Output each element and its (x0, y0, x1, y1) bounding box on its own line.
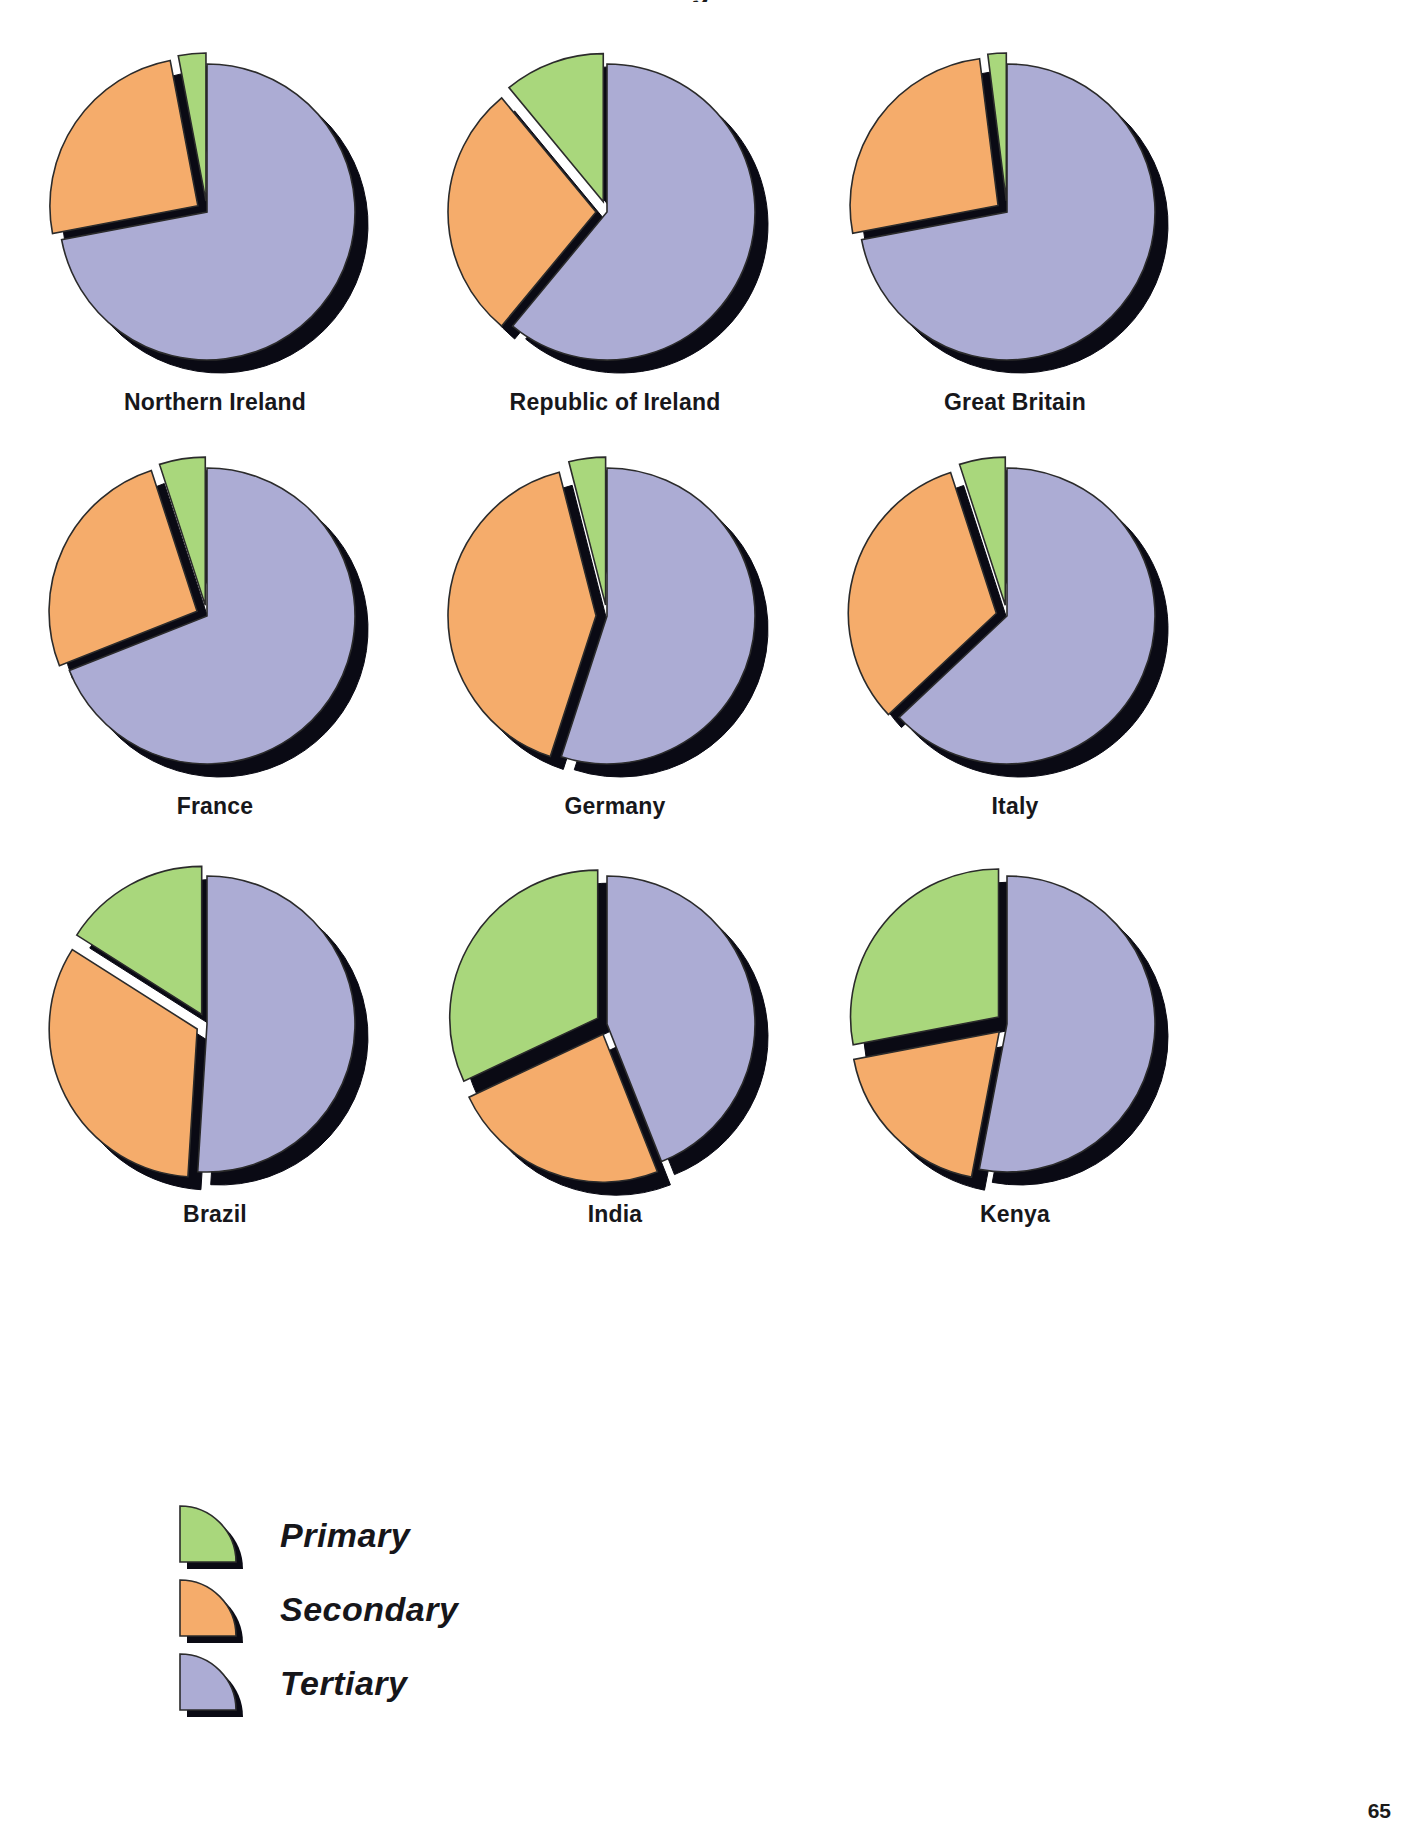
pie-slice-secondary (850, 59, 998, 234)
pie-slice-primary (851, 869, 999, 1045)
pie-slices (49, 866, 355, 1176)
pie-chart-row: France Germany Italy (0, 444, 1401, 820)
pie-svg (35, 852, 395, 1197)
pie-chart-italy (835, 444, 1195, 789)
pie-svg (435, 444, 795, 789)
page-root: g Northern Ireland Republic of Ireland G… (0, 0, 1401, 1827)
legend-swatch-svg (170, 1646, 248, 1720)
pie-chart-label: Italy (991, 793, 1038, 820)
legend-swatch-svg (170, 1572, 248, 1646)
pie-chart-cell-italy: Italy (830, 444, 1200, 820)
pie-chart-kenya (835, 852, 1195, 1197)
pie-chart-cell-india: India (430, 852, 800, 1228)
clipped-heading-text: g (0, 0, 1401, 2)
legend-item-secondary: Secondary (170, 1572, 690, 1646)
pie-chart-republic-of-ireland (435, 40, 795, 385)
legend-swatch-wedge (180, 1506, 236, 1562)
pie-chart-cell-germany: Germany (430, 444, 800, 820)
pie-svg (835, 444, 1195, 789)
pie-chart-row: Northern Ireland Republic of Ireland Gre… (0, 40, 1401, 416)
pie-chart-cell-great-britain: Great Britain (830, 40, 1200, 416)
pie-wedge-icon (170, 1646, 248, 1720)
page-number: 65 (1368, 1799, 1391, 1823)
pie-svg (835, 852, 1195, 1197)
pie-svg (35, 40, 395, 385)
pie-svg (435, 852, 795, 1197)
legend-item-label: Tertiary (280, 1664, 407, 1703)
pie-chart-cell-kenya: Kenya (830, 852, 1200, 1228)
pie-chart-northern-ireland (35, 40, 395, 385)
pie-chart-label: France (177, 793, 254, 820)
pie-chart-label: Brazil (183, 1201, 247, 1228)
legend-swatch-wedge (180, 1580, 236, 1636)
legend-item-primary: Primary (170, 1498, 690, 1572)
pie-chart-germany (435, 444, 795, 789)
legend-swatch-wedge (180, 1654, 236, 1710)
pie-chart-great-britain (835, 40, 1195, 385)
pie-chart-label: Republic of Ireland (510, 389, 721, 416)
pie-svg (35, 444, 395, 789)
pie-chart-label: India (588, 1201, 643, 1228)
pie-chart-label: Northern Ireland (124, 389, 306, 416)
pie-chart-cell-brazil: Brazil (30, 852, 400, 1228)
pie-slice-secondary (50, 60, 198, 233)
legend-item-label: Secondary (280, 1590, 458, 1629)
legend-item-label: Primary (280, 1516, 410, 1555)
pie-chart-cell-republic-of-ireland: Republic of Ireland (430, 40, 800, 416)
pie-chart-label: Kenya (980, 1201, 1050, 1228)
pie-chart-row: Brazil India Kenya (0, 852, 1401, 1228)
chart-legend: Primary Secondary Tertiary (170, 1498, 690, 1720)
pie-chart-cell-northern-ireland: Northern Ireland (30, 40, 400, 416)
pie-slices (448, 54, 755, 360)
pie-chart-brazil (35, 852, 395, 1197)
pie-svg (435, 40, 795, 385)
pie-chart-france (35, 444, 395, 789)
pie-chart-cell-france: France (30, 444, 400, 820)
pie-svg (835, 40, 1195, 385)
pie-chart-grid: Northern Ireland Republic of Ireland Gre… (0, 40, 1401, 1228)
pie-chart-label: Germany (564, 793, 665, 820)
legend-swatch-svg (170, 1498, 248, 1572)
legend-item-tertiary: Tertiary (170, 1646, 690, 1720)
pie-chart-label: Great Britain (944, 389, 1086, 416)
pie-wedge-icon (170, 1498, 248, 1572)
pie-wedge-icon (170, 1572, 248, 1646)
pie-chart-india (435, 852, 795, 1197)
